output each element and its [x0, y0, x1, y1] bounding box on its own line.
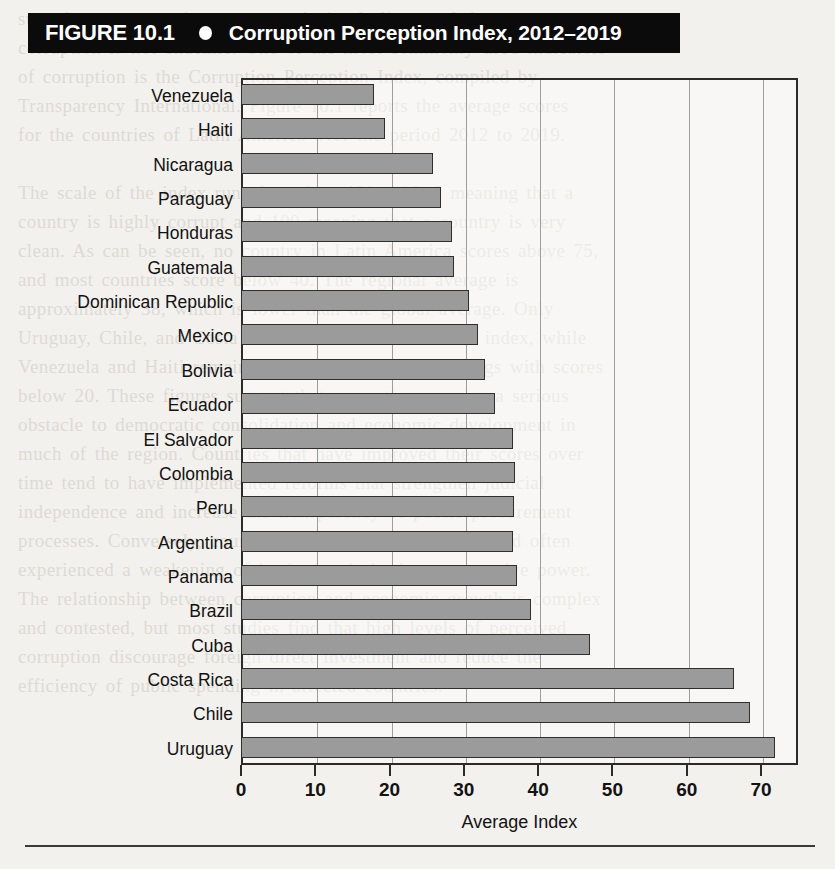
x-tick-mark-50: [611, 765, 613, 776]
bar-row: [241, 422, 798, 455]
bar-row: [241, 387, 798, 420]
bar-row: [241, 628, 798, 661]
x-tick-mark-0: [240, 765, 242, 776]
page-bottom-rule: [25, 845, 815, 847]
bar: [241, 290, 469, 311]
category-label: Guatemala: [1, 258, 233, 278]
category-label: Cuba: [1, 636, 233, 656]
x-tick-label-30: 30: [444, 779, 484, 801]
bar: [241, 599, 531, 620]
bar-row: [241, 353, 798, 386]
bar: [241, 187, 441, 208]
bar-row: [241, 284, 798, 317]
x-tick-mark-40: [537, 765, 539, 776]
category-label: Peru: [1, 498, 233, 518]
bar-row: [241, 78, 798, 111]
bar-row: [241, 215, 798, 248]
x-tick-label-20: 20: [370, 779, 410, 801]
x-tick-label-50: 50: [592, 779, 632, 801]
bar: [241, 118, 385, 139]
x-tick-label-0: 0: [221, 779, 261, 801]
category-label: Haiti: [1, 120, 233, 140]
bar: [241, 668, 734, 689]
x-tick-mark-60: [686, 765, 688, 776]
bar-row: [241, 662, 798, 695]
x-tick-mark-20: [389, 765, 391, 776]
bar: [241, 531, 513, 552]
bar: [241, 221, 452, 242]
bar: [241, 702, 750, 723]
category-label: Dominican Republic: [1, 292, 233, 312]
bar-chart: VenezuelaHaitiNicaraguaParaguayHondurasG…: [0, 0, 835, 869]
bar-row: [241, 593, 798, 626]
bar-row: [241, 696, 798, 729]
bar-row: [241, 181, 798, 214]
bar: [241, 496, 514, 517]
x-axis-title: Average Index: [241, 812, 798, 833]
x-tick-label-10: 10: [295, 779, 335, 801]
bar-row: [241, 250, 798, 283]
category-label: Paraguay: [1, 189, 233, 209]
category-label: Uruguay: [1, 739, 233, 759]
bar-row: [241, 147, 798, 180]
x-tick-mark-10: [314, 765, 316, 776]
x-tick-mark-70: [760, 765, 762, 776]
bar: [241, 462, 515, 483]
category-label: El Salvador: [1, 430, 233, 450]
x-tick-mark-30: [463, 765, 465, 776]
bar: [241, 393, 495, 414]
bar: [241, 634, 590, 655]
category-label: Brazil: [1, 601, 233, 621]
figure-number-label: FIGURE 10.1: [45, 20, 175, 46]
category-label: Ecuador: [1, 395, 233, 415]
category-label: Chile: [1, 704, 233, 724]
bar: [241, 324, 478, 345]
x-tick-label-70: 70: [741, 779, 781, 801]
category-label: Argentina: [1, 533, 233, 553]
category-label: Colombia: [1, 464, 233, 484]
bar-row: [241, 318, 798, 351]
category-label: Costa Rica: [1, 670, 233, 690]
category-label: Mexico: [1, 326, 233, 346]
bar-row: [241, 112, 798, 145]
bar: [241, 565, 517, 586]
bar: [241, 359, 485, 380]
figure-title-text: Corruption Perception Index, 2012–2019: [229, 21, 622, 45]
category-label: Panama: [1, 567, 233, 587]
bar-row: [241, 525, 798, 558]
category-label: Venezuela: [1, 86, 233, 106]
bar: [241, 153, 433, 174]
bar-row: [241, 456, 798, 489]
category-labels-group: VenezuelaHaitiNicaraguaParaguayHondurasG…: [0, 78, 233, 765]
bars-group: [241, 78, 798, 765]
category-label: Honduras: [1, 223, 233, 243]
figure-title-banner: FIGURE 10.1 Corruption Perception Index,…: [28, 13, 680, 53]
bullet-dot-icon: [199, 26, 212, 40]
x-tick-label-60: 60: [667, 779, 707, 801]
bar: [241, 84, 374, 105]
bar-row: [241, 731, 798, 764]
category-label: Nicaragua: [1, 155, 233, 175]
bar-row: [241, 490, 798, 523]
bar: [241, 428, 513, 449]
bar: [241, 256, 454, 277]
x-tick-label-40: 40: [518, 779, 558, 801]
bar: [241, 737, 775, 758]
bar-row: [241, 559, 798, 592]
figure-page: sure that a country is transparent in it…: [0, 0, 835, 869]
category-label: Bolivia: [1, 361, 233, 381]
